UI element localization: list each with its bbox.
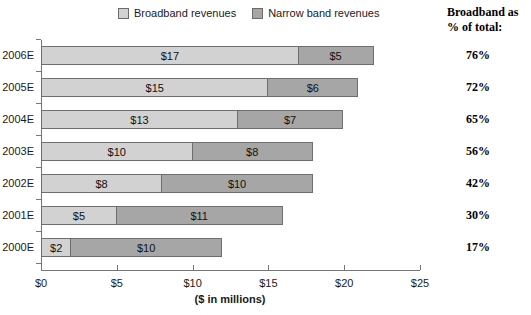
broadband-percent-2002E: 42% [466, 174, 490, 193]
y-tick-1 [36, 71, 41, 72]
stacked-bar-2006E: $17$5 [41, 46, 374, 65]
broadband-percent-2001E: 30% [466, 206, 490, 225]
x-tick-1 [117, 265, 118, 270]
legend-swatch-narrowband-icon [252, 8, 263, 19]
legend-swatch-broadband-icon [118, 8, 129, 19]
y-tick-last [36, 263, 41, 264]
x-tick-4 [344, 265, 345, 270]
stacked-bar-2003E: $10$8 [41, 142, 313, 161]
bar-segment-2003E-narrowband: $8 [192, 142, 313, 161]
y-axis-label-2005E: 2005E [0, 78, 34, 97]
broadband-percent-header-line1: Broadband as [447, 5, 518, 20]
bar-segment-2003E-broadband: $10 [41, 142, 193, 161]
x-tick-label-0: $0 [35, 277, 47, 289]
x-tick-label-5: $5 [111, 277, 123, 289]
broadband-percent-2005E: 72% [466, 78, 490, 97]
broadband-percent-2000E: 17% [466, 238, 490, 257]
y-axis-label-2006E: 2006E [0, 46, 34, 65]
y-axis-label-2004E: 2004E [0, 110, 34, 129]
legend-item-broadband: Broadband revenues [118, 8, 236, 19]
stacked-bar-2002E: $8$10 [41, 174, 313, 193]
bar-segment-2002E-narrowband: $10 [161, 174, 313, 193]
x-tick-3 [268, 265, 269, 270]
broadband-percent-2003E: 56% [466, 142, 490, 161]
bar-segment-2004E-broadband: $13 [41, 110, 238, 129]
y-axis-label-2003E: 2003E [0, 142, 34, 161]
y-tick-2 [36, 103, 41, 104]
x-axis-title: ($ in millions) [195, 293, 266, 305]
y-tick-4 [36, 167, 41, 168]
y-tick-0 [36, 39, 41, 40]
bar-segment-2005E-narrowband: $6 [267, 78, 358, 97]
broadband-percent-column-header: Broadband as % of total: [447, 5, 518, 35]
broadband-percent-2004E: 65% [466, 110, 490, 129]
bar-segment-2006E-narrowband: $5 [298, 46, 374, 65]
bar-segment-2002E-broadband: $8 [41, 174, 162, 193]
bar-segment-2006E-broadband: $17 [41, 46, 299, 65]
bar-segment-2004E-narrowband: $7 [237, 110, 343, 129]
bar-segment-2001E-broadband: $5 [41, 206, 117, 225]
bar-segment-2005E-broadband: $15 [41, 78, 268, 97]
broadband-percent-header-line2: % of total: [447, 20, 518, 35]
x-tick-label-25: $25 [411, 277, 429, 289]
legend-label-narrowband: Narrow band revenues [268, 8, 379, 19]
y-tick-5 [36, 199, 41, 200]
x-tick-label-15: $15 [259, 277, 277, 289]
bar-segment-2000E-broadband: $2 [41, 238, 71, 257]
x-tick-label-10: $10 [183, 277, 201, 289]
stacked-bar-2004E: $13$7 [41, 110, 343, 129]
stacked-bar-chart: Broadband revenues Narrow band revenues … [0, 0, 531, 315]
y-axis-label-2002E: 2002E [0, 174, 34, 193]
stacked-bar-2001E: $5$11 [41, 206, 283, 225]
chart-legend: Broadband revenues Narrow band revenues [118, 8, 379, 19]
stacked-bar-2000E: $2$10 [41, 238, 222, 257]
y-axis-label-2001E: 2001E [0, 206, 34, 225]
bar-segment-2001E-narrowband: $11 [116, 206, 283, 225]
stacked-bar-2005E: $15$6 [41, 78, 358, 97]
bar-segment-2000E-narrowband: $10 [70, 238, 222, 257]
x-tick-0 [41, 265, 42, 270]
broadband-percent-2006E: 76% [466, 46, 490, 65]
x-axis-line [41, 270, 420, 271]
legend-label-broadband: Broadband revenues [134, 8, 236, 19]
y-axis-labels: 2006E2005E2004E2003E2002E2001E2000E [0, 40, 35, 270]
y-tick-3 [36, 135, 41, 136]
legend-item-narrowband: Narrow band revenues [252, 8, 379, 19]
x-tick-2 [193, 265, 194, 270]
y-tick-6 [36, 231, 41, 232]
y-axis-label-2000E: 2000E [0, 238, 34, 257]
x-tick-label-20: $20 [335, 277, 353, 289]
x-tick-5 [420, 265, 421, 270]
